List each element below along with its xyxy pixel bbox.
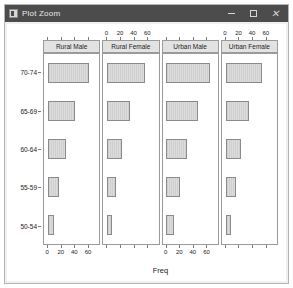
x-axis-tick: [106, 245, 107, 248]
panel-strip-3: Urban Male: [162, 40, 219, 53]
x-axis-tick-label: 0: [105, 30, 108, 36]
x-axis-tick: [147, 245, 148, 248]
panel-strip-1: Rural Male: [43, 40, 100, 53]
panel-strip-2: Rural Female: [102, 40, 159, 53]
x-axis-tick: [88, 245, 89, 248]
x-axis-tick: [266, 245, 267, 248]
window-controls: ✕: [220, 6, 286, 22]
x-axis-tick: [206, 245, 207, 248]
x-axis-tick-label: 40: [130, 30, 137, 36]
bar: [226, 101, 250, 121]
x-axis-tick-label: 20: [117, 30, 124, 36]
x-axis-tick-label: 0: [164, 249, 167, 255]
x-axis-tick: [166, 245, 167, 248]
y-axis-tick: [38, 72, 41, 73]
y-axis-tick: [38, 149, 41, 150]
x-axis-tick: [74, 245, 75, 248]
x-axis-tick-label: 60: [262, 30, 269, 36]
bar: [226, 63, 262, 83]
x-axis-tick-label: 0: [45, 249, 48, 255]
y-axis-tick-label: 60-64: [20, 146, 37, 153]
bar: [226, 139, 242, 159]
bar: [166, 215, 173, 235]
axis-segment-3: [162, 24, 219, 40]
x-axis-tick-label: 40: [71, 249, 78, 255]
x-axis-tick-label: 20: [235, 30, 242, 36]
bar: [226, 177, 237, 197]
y-axis-tick: [38, 187, 41, 188]
plot-zoom-window: Plot Zoom ✕ 02040600204060 Rural MaleRur…: [4, 4, 289, 284]
bar: [107, 177, 116, 197]
bar: [48, 101, 75, 121]
y-axis-tick-label: 55-59: [20, 184, 37, 191]
chart-panel-1: [43, 53, 100, 245]
bar: [107, 63, 144, 83]
axis-segment-1: [43, 24, 100, 40]
axis-segment-2: 0204060: [102, 24, 159, 40]
x-axis-tick: [134, 245, 135, 248]
axis-segment-1: 0204060: [43, 245, 100, 259]
chart-panel-2: [102, 53, 159, 245]
bar: [166, 63, 209, 83]
plot-canvas: 02040600204060 Rural MaleRural FemaleUrb…: [7, 24, 286, 281]
x-axis-tick: [61, 245, 62, 248]
x-axis-tick-label: 20: [57, 249, 64, 255]
window-titlebar[interactable]: Plot Zoom ✕: [5, 5, 288, 22]
bar: [48, 63, 89, 83]
panel-strip-label: Urban Female: [229, 43, 270, 50]
plot-window-icon: [9, 9, 18, 18]
x-axis-tick: [225, 245, 226, 248]
axis-segment-4: [221, 245, 278, 259]
y-axis: 70-7465-6960-6455-5950-54: [7, 53, 41, 245]
x-axis-tick-label: 40: [190, 249, 197, 255]
x-axis-tick-label: 20: [176, 249, 183, 255]
x-axis-tick-label: 60: [85, 249, 92, 255]
bar: [48, 177, 59, 197]
x-axis-tick: [179, 245, 180, 248]
y-axis-tick: [38, 226, 41, 227]
bar: [107, 101, 129, 121]
panel-strip-label: Urban Male: [173, 43, 207, 50]
y-axis-tick: [38, 111, 41, 112]
x-axis-tick-label: 60: [203, 249, 210, 255]
axis-segment-3: 0204060: [162, 245, 219, 259]
x-axis-tick-label: 0: [223, 30, 226, 36]
axis-segment-2: [102, 245, 159, 259]
x-axis-title: Freq: [43, 266, 278, 275]
bar: [107, 215, 112, 235]
maximize-icon[interactable]: [242, 6, 264, 22]
plot-inner: 02040600204060 Rural MaleRural FemaleUrb…: [7, 24, 286, 281]
bottom-axis: 02040600204060: [43, 245, 278, 259]
y-axis-tick-label: 70-74: [20, 69, 37, 76]
axis-segment-4: 0204060: [221, 24, 278, 40]
y-axis-tick-label: 65-69: [20, 107, 37, 114]
x-axis-tick: [238, 245, 239, 248]
bar: [48, 139, 66, 159]
bar: [48, 215, 54, 235]
panel-strip-label: Rural Male: [56, 43, 87, 50]
x-axis-tick: [120, 245, 121, 248]
panel-grid: [43, 53, 278, 245]
x-axis-tick: [193, 245, 194, 248]
panel-strip-label: Rural Female: [111, 43, 150, 50]
close-icon[interactable]: ✕: [264, 6, 286, 22]
chart-panel-4: [221, 53, 278, 245]
bar: [166, 139, 186, 159]
minimize-icon[interactable]: [220, 6, 242, 22]
x-axis-tick-label: 40: [249, 30, 256, 36]
bar: [226, 215, 231, 235]
bar: [107, 139, 122, 159]
panel-strip-headers: Rural MaleRural FemaleUrban MaleUrban Fe…: [43, 40, 278, 53]
window-title: Plot Zoom: [22, 5, 220, 22]
bar: [166, 101, 198, 121]
y-axis-tick-label: 50-54: [20, 222, 37, 229]
x-axis-tick: [47, 245, 48, 248]
x-axis-tick: [252, 245, 253, 248]
x-axis-tick-label: 60: [144, 30, 151, 36]
bar: [166, 177, 180, 197]
panel-strip-4: Urban Female: [221, 40, 278, 53]
chart-panel-3: [162, 53, 219, 245]
top-axis: 02040600204060: [43, 24, 278, 40]
